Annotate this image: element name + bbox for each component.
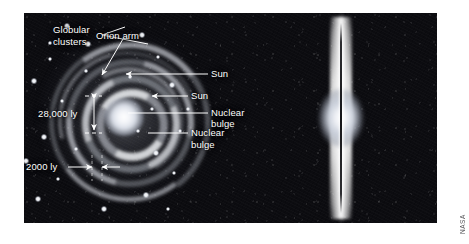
label-sun-right: Sun: [191, 90, 208, 101]
galaxy-figure: Orion arm Sun Nuclear bulge Globular clu…: [24, 13, 437, 223]
label-orion-arm: Orion arm: [96, 30, 139, 41]
measurement-2000ly: 2000 ly: [26, 161, 57, 172]
leader-orion-arm: [102, 39, 123, 75]
label-globular-clusters-line1: Globular: [53, 24, 90, 35]
label-nuclear-bulge-right-line2: bulge: [191, 139, 215, 150]
label-nuclear-bulge-left-line1: Nuclear: [211, 107, 244, 118]
label-nuclear-bulge-right-line1: Nuclear: [191, 127, 224, 138]
annotation-layer: Orion arm Sun Nuclear bulge Globular clu…: [24, 13, 437, 223]
nasa-credit: NASA: [459, 214, 466, 234]
measurement-28000ly: 28,000 ly: [38, 108, 77, 119]
label-sun-left: Sun: [211, 68, 228, 79]
label-globular-clusters-line2: clusters: [53, 36, 87, 47]
